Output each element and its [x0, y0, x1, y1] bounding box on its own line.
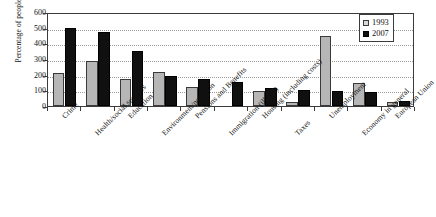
- y-tick-label: 500: [6, 25, 46, 33]
- x-axis-label: Taxes: [293, 118, 312, 137]
- legend-label-1993: 1993: [372, 18, 389, 27]
- bar-2007: [65, 28, 77, 106]
- x-tick-mark: [414, 107, 415, 111]
- legend-label-2007: 2007: [372, 29, 389, 38]
- x-tick-mark: [347, 107, 348, 111]
- legend-item-2007: 2007: [363, 28, 389, 39]
- bar-1993: [320, 36, 332, 106]
- bar-group: [48, 14, 81, 106]
- x-tick-mark: [80, 107, 81, 111]
- bar-1993: [153, 72, 165, 106]
- y-tick-label: 0: [6, 103, 46, 111]
- bar-2007: [165, 76, 177, 106]
- legend-swatch-1993-icon: [363, 20, 369, 26]
- bar-2007: [365, 92, 377, 106]
- y-tick-label: 400: [6, 40, 46, 48]
- legend-item-1993: 1993: [363, 17, 389, 28]
- bar-2007: [98, 32, 110, 106]
- legend-swatch-2007-icon: [363, 31, 369, 37]
- bar-2007: [298, 90, 310, 106]
- bar-1993: [53, 73, 65, 106]
- bar-group: [81, 14, 114, 106]
- x-tick-mark: [47, 107, 48, 111]
- bar-1993: [286, 102, 298, 106]
- x-tick-mark: [314, 107, 315, 111]
- y-tick-label: 100: [6, 87, 46, 95]
- y-tick-label: 300: [6, 56, 46, 64]
- x-tick-mark: [214, 107, 215, 111]
- x-tick-mark: [147, 107, 148, 111]
- y-tick-label: 600: [6, 9, 46, 17]
- y-tick-label: 200: [6, 72, 46, 80]
- bar-1993: [86, 61, 98, 106]
- bar-group: [148, 14, 181, 106]
- x-tick-mark: [281, 107, 282, 111]
- legend: 1993 2007: [359, 14, 394, 42]
